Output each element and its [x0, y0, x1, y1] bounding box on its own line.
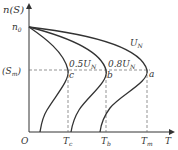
- diagram-svg: n(S) n0 (Sm) UN 0.8UN 0.5UN a b c O Tc T…: [0, 0, 178, 150]
- x-axis-label: T: [165, 136, 172, 146]
- curve-05un-label: 0.5UN: [69, 59, 97, 70]
- curve-08un: [29, 27, 106, 132]
- sm-label: (Sm): [2, 66, 21, 77]
- point-a-label: a: [149, 69, 154, 79]
- tm-label: Tm: [141, 136, 153, 147]
- curve-un-label: UN: [130, 38, 144, 49]
- tc-label: Tc: [63, 136, 73, 147]
- point-c-label: c: [69, 70, 74, 80]
- origin-label: O: [21, 136, 29, 146]
- y-axis-label: n(S): [3, 4, 24, 15]
- curve-05un: [29, 27, 68, 132]
- n0-label: n0: [12, 22, 22, 33]
- torque-speed-diagram: n(S) n0 (Sm) UN 0.8UN 0.5UN a b c O Tc T…: [0, 0, 178, 150]
- tb-label: Tb: [101, 136, 111, 147]
- curve-08un-label: 0.8UN: [108, 59, 136, 70]
- point-b-label: b: [107, 70, 113, 80]
